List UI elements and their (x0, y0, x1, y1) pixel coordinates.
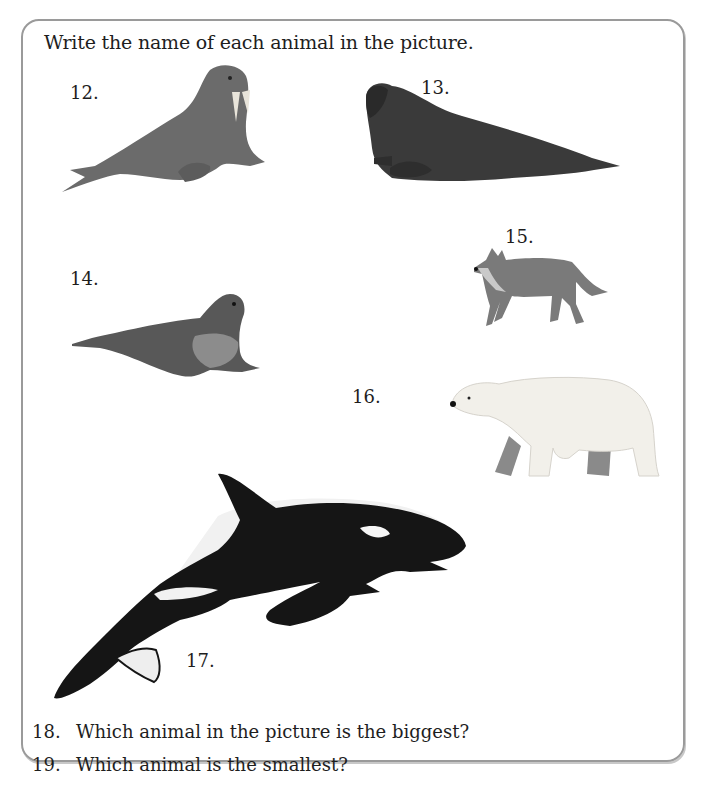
question-19: 19. Which animal is the smallest? (32, 754, 672, 778)
label-15: 15. (505, 226, 534, 247)
label-16: 16. (352, 386, 381, 407)
question-18: 18. Which animal in the picture is the b… (32, 721, 672, 745)
seal-icon (70, 292, 262, 380)
wolf-icon (472, 246, 612, 330)
instruction-text: Write the name of each animal in the pic… (44, 31, 474, 53)
elephant-seal-icon (362, 78, 622, 184)
label-14: 14. (70, 268, 99, 289)
walrus-icon (60, 62, 270, 197)
question-19-text: Which animal is the smallest? (76, 754, 348, 775)
question-18-number: 18. (32, 721, 61, 742)
polar-bear-icon (449, 376, 661, 480)
question-19-number: 19. (32, 754, 61, 775)
orca-icon (50, 470, 470, 702)
question-18-text: Which animal in the picture is the bigge… (76, 721, 469, 742)
